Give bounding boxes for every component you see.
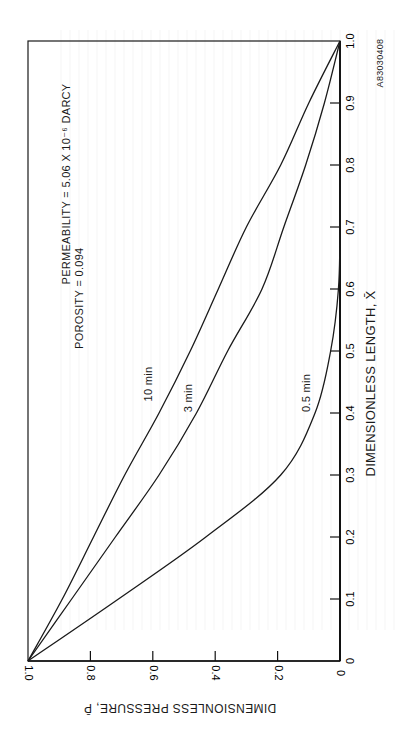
- curve-label-3-min: 3 min: [182, 378, 194, 418]
- curve-label-0-5-min: 0.5 min: [300, 367, 312, 419]
- y-tick-label: 0.6: [148, 665, 160, 680]
- y-tick-label: 0.2: [273, 665, 285, 680]
- y-tick-label: 0.8: [85, 665, 97, 680]
- x-tick-label: 0.9: [344, 95, 356, 110]
- y-tick-label: 0: [335, 670, 347, 676]
- figure-id: A83030408: [375, 28, 385, 98]
- porosity-annotation: POROSITY = 0.094: [73, 129, 85, 349]
- x-tick-label: 0.7: [344, 219, 356, 234]
- x-tick-label: 0.2: [344, 529, 356, 544]
- y-tick-label: 1.0: [23, 665, 35, 680]
- y-axis-title: DIMENSIONLESS PRESSURE, P̄: [70, 701, 290, 715]
- permeability-annotation: PERMEABILITY = 5.06 X 10⁻⁶ DARCY: [60, 65, 73, 285]
- y-tick-label: 0.4: [210, 665, 222, 680]
- x-tick-label: 0: [344, 658, 356, 664]
- x-tick-label: 0.6: [344, 281, 356, 296]
- x-tick-label: 0.1: [344, 591, 356, 606]
- x-tick-label: 0.4: [344, 405, 356, 420]
- x-tick-label: 0.3: [344, 467, 356, 482]
- x-axis-title: DIMENSIONLESS LENGTH, X̄: [363, 234, 378, 534]
- x-axis-ticks: 00.10.20.30.40.50.60.70.80.91.0: [330, 33, 356, 664]
- x-tick-label: 0.8: [344, 157, 356, 172]
- curve-label-10-min: 10 min: [142, 362, 154, 406]
- y-axis-ticks: 00.20.40.60.81.0: [23, 651, 347, 681]
- x-tick-label: 1.0: [344, 33, 356, 48]
- x-tick-label: 0.5: [344, 343, 356, 358]
